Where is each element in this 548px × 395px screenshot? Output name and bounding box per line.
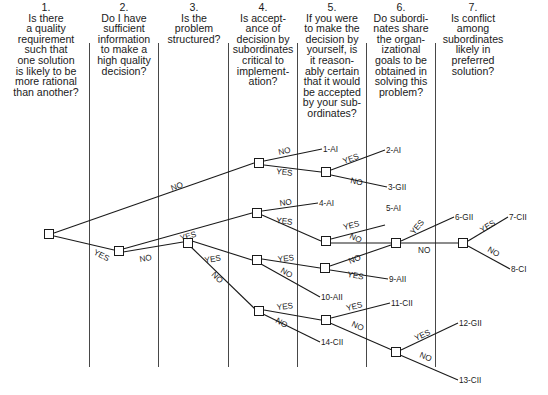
node-q5-d [322, 316, 331, 325]
label-no: NO [418, 351, 433, 364]
label-yes: YES [277, 253, 295, 264]
outcome-11: 11-CII [391, 299, 413, 308]
column-separators [90, 43, 436, 367]
outcome-14: 14-CII [321, 338, 343, 347]
outcome-8: 8-CI [511, 265, 526, 274]
label-no: NO [350, 320, 365, 333]
outcome-1: 1-AI [323, 145, 338, 154]
label-yes: YES [276, 167, 294, 178]
node-q5-c [321, 264, 330, 273]
node-q6-a [392, 239, 401, 248]
label-no: NO [279, 266, 294, 280]
edge-root-no [54, 163, 254, 233]
edges [54, 149, 510, 380]
outcome-9: 9-AII [389, 275, 406, 284]
node-q7 [459, 239, 468, 248]
label-yes: YES [92, 248, 111, 264]
label-yes: YES [413, 328, 432, 343]
label-yes: YES [345, 300, 364, 313]
node-q5-b [322, 237, 331, 246]
outcome-4: 4-AI [319, 199, 334, 208]
label-no: NO [210, 270, 225, 285]
outcome-5: 5-AI [386, 204, 401, 213]
outcome-6: 6-GII [455, 213, 473, 222]
outcome-3: 3-GII [388, 183, 406, 192]
label-no: NO [274, 316, 289, 330]
label-no: NO [347, 253, 362, 266]
node-q4-b [253, 209, 262, 218]
outcome-10: 10-AII [321, 293, 343, 302]
outcome-12: 12-GII [459, 319, 482, 328]
label-no: NO [139, 253, 153, 264]
label-yes: YES [342, 152, 361, 166]
label-no: NO [418, 246, 430, 255]
node-q5-a [322, 168, 331, 177]
label-yes: YES [179, 230, 198, 243]
label-yes: YES [342, 219, 361, 232]
label-yes: YES [347, 270, 365, 282]
label-no: NO [279, 197, 292, 208]
label-yes: YES [409, 218, 427, 237]
outcome-7: 7-CII [509, 213, 527, 222]
edge-a-no [264, 149, 322, 161]
node-q4-d [255, 307, 264, 316]
node-q1 [45, 230, 54, 239]
node-q4-a [255, 159, 264, 168]
outcome-2: 2-AI [386, 146, 401, 155]
node-q4-c [253, 256, 262, 265]
label-no: NO [170, 180, 185, 193]
label-yes: YES [276, 301, 294, 312]
label-no: NO [350, 176, 364, 187]
edge-f-no [330, 245, 391, 266]
node-q2 [115, 247, 124, 256]
node-q6-b [392, 348, 401, 357]
label-yes: YES [204, 253, 222, 265]
decision-tree: NO YES YES NO YES NO NO YES YES NO NO YE… [0, 0, 548, 395]
label-yes: YES [276, 216, 294, 227]
label-yes: YES [478, 218, 497, 235]
edge-root-yes [54, 236, 114, 250]
outcome-13: 13-CII [459, 376, 481, 385]
